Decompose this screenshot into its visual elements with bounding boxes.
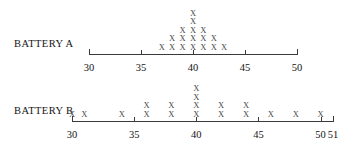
data-mark: X [193, 101, 199, 110]
data-mark: X [211, 34, 217, 43]
data-mark: X [190, 34, 196, 43]
data-mark: X [211, 43, 217, 52]
axis-tick-label: 30 [84, 62, 95, 73]
series-label-battery-a: BATTERY A [14, 38, 74, 49]
data-mark: X [169, 43, 175, 52]
data-mark: X [200, 34, 206, 43]
data-mark: X [190, 17, 196, 26]
data-mark: X [190, 43, 196, 52]
axis-tick-label: 50 [292, 62, 303, 73]
axis-tick-label: 45 [240, 62, 251, 73]
data-mark: X [243, 101, 249, 110]
axis-tick [141, 50, 142, 55]
axis-tick-label: 40 [191, 129, 202, 140]
axis-tick [245, 50, 246, 55]
data-mark: X [218, 110, 224, 119]
data-mark: X [317, 110, 323, 119]
data-mark: X [69, 110, 75, 119]
axis-tick [89, 49, 90, 55]
axis-tick [297, 49, 298, 55]
data-mark: X [143, 101, 149, 110]
data-mark: X [200, 26, 206, 35]
data-mark: X [193, 84, 199, 93]
axis-tick [258, 117, 259, 122]
data-mark: X [143, 110, 149, 119]
data-mark: X [221, 43, 227, 52]
axis-tick-label: 45 [253, 129, 264, 140]
data-mark: X [293, 110, 299, 119]
data-mark: X [169, 34, 175, 43]
axis-tick-label: 50 [315, 129, 326, 140]
data-mark: X [193, 93, 199, 102]
data-mark: X [180, 26, 186, 35]
axis-tick-label: 35 [129, 129, 140, 140]
data-mark: X [180, 43, 186, 52]
data-mark: X [168, 101, 174, 110]
axis-line [72, 121, 333, 122]
data-mark: X [168, 110, 174, 119]
axis-tick-label: 51 [328, 129, 339, 140]
series-label-battery-b: BATTERY B [14, 105, 74, 116]
data-mark: X [119, 110, 125, 119]
data-mark: X [180, 34, 186, 43]
axis-tick [333, 116, 334, 122]
data-mark: X [200, 43, 206, 52]
dot-plot-figure: BATTERY A 3035404550 XXXXXXXXXXXXXXXXX B… [0, 0, 344, 151]
data-mark: X [190, 26, 196, 35]
data-mark: X [159, 43, 165, 52]
data-mark: X [268, 110, 274, 119]
axis-tick-label: 40 [188, 62, 199, 73]
axis-tick [134, 117, 135, 122]
axis-tick-label: 35 [136, 62, 147, 73]
data-mark: X [190, 9, 196, 18]
data-mark: X [243, 110, 249, 119]
data-mark: X [193, 110, 199, 119]
data-mark: X [81, 110, 87, 119]
axis-tick-label: 30 [67, 129, 78, 140]
data-mark: X [218, 101, 224, 110]
